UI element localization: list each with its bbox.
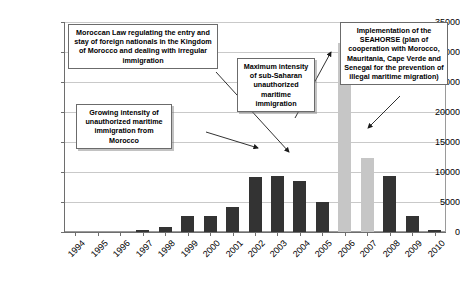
bar-2007 <box>361 158 374 232</box>
bar-2003 <box>271 176 284 232</box>
x-tick-2008 <box>390 232 391 236</box>
x-tick-2004 <box>300 232 301 236</box>
bar-2000 <box>204 216 217 232</box>
chart-container: 35000 30000 25000 20000 15000 10000 5000… <box>0 0 460 288</box>
bar-2002 <box>249 177 262 232</box>
x-tick-2003 <box>277 232 278 236</box>
x-tick-1999 <box>188 232 189 236</box>
bar-2009 <box>406 216 419 232</box>
x-tick-1995 <box>98 232 99 236</box>
annotation-maximum-intensity: Maximum intensity of sub-Saharan unautho… <box>237 58 315 112</box>
annotation-seahorse: Implementation of the SEAHORSE (plan of … <box>340 22 448 85</box>
annotation-growing-intensity: Growing intensity of unauthorized mariti… <box>76 104 172 149</box>
y-tick-0 <box>61 232 65 233</box>
x-tick-2010 <box>435 232 436 236</box>
x-tick-1996 <box>120 232 121 236</box>
x-tick-2007 <box>367 232 368 236</box>
bar-2004 <box>293 181 306 232</box>
x-tick-1994 <box>75 232 76 236</box>
bar-2008 <box>383 176 396 232</box>
x-tick-2005 <box>322 232 323 236</box>
x-tick-2000 <box>210 232 211 236</box>
x-tick-1997 <box>143 232 144 236</box>
x-tick-2006 <box>345 232 346 236</box>
bar-2005 <box>316 202 329 232</box>
x-tick-2009 <box>412 232 413 236</box>
x-tick-1998 <box>165 232 166 236</box>
x-tick-2002 <box>255 232 256 236</box>
annotation-moroccan-law: Moroccan Law regulating the entry and st… <box>68 24 218 69</box>
x-tick-2001 <box>233 232 234 236</box>
bar-2001 <box>226 207 239 232</box>
bar-1999 <box>181 216 194 232</box>
